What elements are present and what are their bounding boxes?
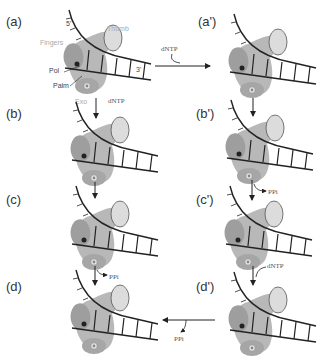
panel-label-d: (d) xyxy=(6,279,22,294)
thumb-label: Thumb xyxy=(107,25,129,32)
panel-label-b-prime: (b') xyxy=(196,106,214,121)
enzyme-a xyxy=(64,10,151,94)
palm-label: Palm xyxy=(53,82,69,89)
enzyme-c xyxy=(71,186,158,270)
panel-label-c-prime: (c') xyxy=(196,192,214,207)
enzyme-b-prime xyxy=(226,100,313,184)
dntp-label-c-prime-d-prime: dNTP xyxy=(267,262,284,270)
panel-label-a: (a) xyxy=(6,14,22,29)
enzyme-d xyxy=(71,270,158,354)
pol-label: Pol xyxy=(49,67,60,74)
polymerase-cycle-diagram: (a) (a') (b) (b') (c) (c') (d) (d') Fing… xyxy=(0,0,321,360)
fingers-label: Fingers xyxy=(40,39,64,47)
dntp-label-a-b: dNTP xyxy=(108,97,125,105)
three-prime-label: 3' xyxy=(136,66,141,73)
enzyme-c-prime xyxy=(225,186,312,270)
ppi-label-c-d: PPi xyxy=(109,273,119,281)
panel-label-d-prime: (d') xyxy=(196,279,214,294)
panel-label-c: (c) xyxy=(6,192,21,207)
dntp-label-a-a-prime: dNTP xyxy=(161,45,178,53)
ppi-label-b-prime-c-prime: PPi xyxy=(268,188,278,196)
panel-label-a-prime: (a') xyxy=(198,14,216,29)
five-prime-label: 5' xyxy=(66,20,71,27)
enzyme-b xyxy=(71,102,158,186)
panel-label-b: (b) xyxy=(6,106,22,121)
enzyme-a-prime xyxy=(229,14,316,98)
enzyme-d-prime xyxy=(229,272,316,356)
ppi-label-d-prime-d: PPi xyxy=(174,335,184,343)
